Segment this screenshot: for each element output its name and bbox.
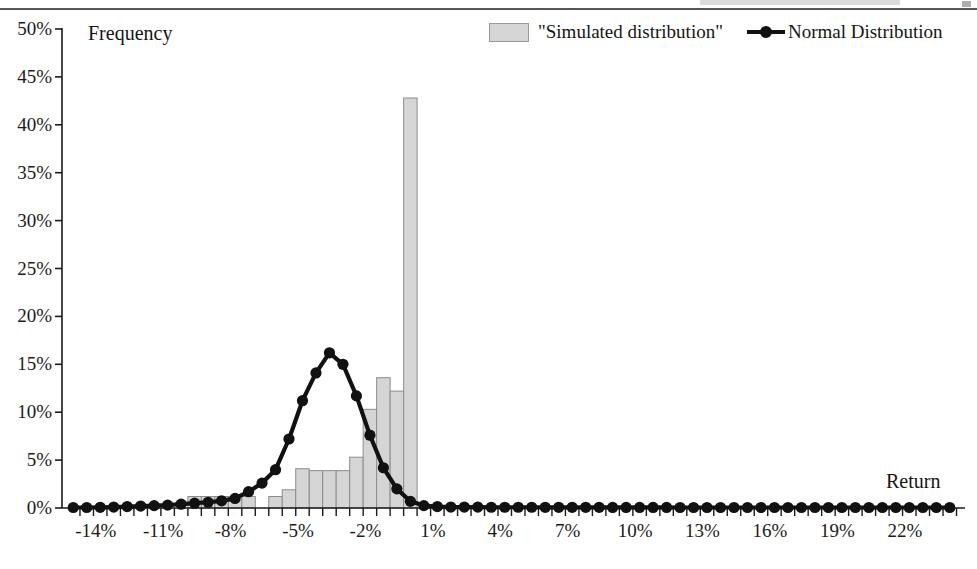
normal-distribution-marker [944,502,955,513]
normal-distribution-marker [418,500,429,511]
bar-group [188,98,417,508]
normal-distribution-marker [270,464,281,475]
normal-distribution-marker [68,502,79,513]
histogram-bar [350,457,363,508]
histogram-bar [404,98,417,508]
normal-distribution-marker [594,502,605,513]
normal-distribution-marker [324,347,335,358]
axes [55,28,965,516]
normal-distribution-marker [809,502,820,513]
histogram-bar [323,471,336,508]
normal-distribution-marker [796,502,807,513]
normal-distribution-marker [742,502,753,513]
normal-distribution-marker [499,502,510,513]
normal-distribution-marker [486,502,497,513]
normal-distribution-marker [782,502,793,513]
normal-distribution-marker [701,502,712,513]
normal-distribution-marker [445,501,456,512]
normal-distribution-marker [917,502,928,513]
histogram-bar [282,490,295,508]
histogram-bar [309,471,322,508]
normal-distribution-marker [310,367,321,378]
normal-distribution-marker [850,502,861,513]
normal-distribution-marker [391,483,402,494]
normal-distribution-marker [621,502,632,513]
normal-distribution-marker [135,500,146,511]
histogram-plot [0,0,977,569]
normal-distribution-marker [216,495,227,506]
normal-distribution-marker [364,430,375,441]
normal-distribution-marker [715,502,726,513]
normal-distribution-marker [540,502,551,513]
normal-distribution-marker [890,502,901,513]
normal-distribution-marker [229,493,240,504]
normal-distribution-marker [647,502,658,513]
normal-distribution-marker [189,498,200,509]
histogram-bar [336,471,349,508]
normal-distribution-marker [256,477,267,488]
normal-distribution-marker [95,502,106,513]
normal-distribution-marker [728,502,739,513]
normal-distribution-marker [580,502,591,513]
normal-distribution-marker [378,462,389,473]
normal-distribution-marker [836,502,847,513]
normal-distribution-marker [81,502,92,513]
histogram-bar [296,469,309,508]
normal-distribution-marker [122,501,133,512]
normal-distribution-marker [243,486,254,497]
normal-distribution-marker [162,500,173,511]
normal-distribution-marker [202,497,213,508]
normal-distribution-marker [149,500,160,511]
normal-distribution-marker [904,502,915,513]
normal-distribution-marker [459,501,470,512]
normal-distribution-marker [661,502,672,513]
scanned-page: Frequency Return "Simulated distribution… [0,0,977,569]
normal-distribution-marker [405,496,416,507]
normal-distribution-line [73,353,950,508]
histogram-bar [377,378,390,508]
normal-distribution-marker [297,395,308,406]
normal-distribution-marker [634,502,645,513]
normal-distribution-marker [176,499,187,510]
normal-distribution-marker [513,502,524,513]
normal-distribution-marker [607,502,618,513]
normal-distribution-marker [432,501,443,512]
normal-distribution-marker [526,502,537,513]
normal-distribution-marker [472,501,483,512]
normal-distribution-marker [674,502,685,513]
normal-distribution-marker [567,502,578,513]
histogram-bar [242,497,255,509]
normal-distribution-marker [108,501,119,512]
normal-distribution-marker [769,502,780,513]
normal-distribution-marker [337,359,348,370]
normal-distribution-marker [823,502,834,513]
normal-distribution-marker [283,433,294,444]
histogram-bar [269,497,282,509]
normal-distribution-marker [553,502,564,513]
normal-distribution-marker [351,390,362,401]
normal-distribution-marker [931,502,942,513]
normal-distribution-marker [863,502,874,513]
normal-distribution-marker [688,502,699,513]
normal-distribution-marker [755,502,766,513]
normal-distribution-series [68,347,956,513]
normal-distribution-marker [877,502,888,513]
